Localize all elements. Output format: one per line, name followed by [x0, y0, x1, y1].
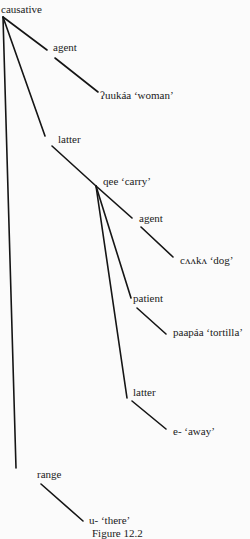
node-causative: causative — [1, 3, 42, 15]
node-latter: latter — [58, 133, 81, 145]
edge-range-there — [41, 484, 83, 521]
node-patient: patient — [133, 292, 163, 304]
node-latter-2: latter — [133, 386, 156, 398]
edge-carry-patient — [96, 186, 131, 298]
edge-causative-latter — [3, 17, 45, 136]
edge-latter-carry — [52, 146, 96, 186]
node-tortilla: paapáa ‘tortilla’ — [173, 326, 243, 338]
edge-carry-latter — [96, 186, 127, 398]
edge-causative-range — [3, 17, 16, 468]
edge-agent-woman — [55, 58, 98, 92]
node-carry: qee ‘carry’ — [103, 175, 151, 187]
node-dog: cʌʌkʌ ‘dog’ — [180, 254, 233, 266]
node-woman: ʔuukáa ‘woman’ — [100, 89, 174, 101]
node-agent: agent — [53, 41, 77, 53]
node-agent-2: agent — [139, 212, 163, 224]
edge-patient-tortilla — [137, 308, 166, 334]
figure-caption: Figure 12.2 — [92, 527, 143, 539]
node-away: e- ‘away’ — [173, 425, 215, 437]
node-range: range — [37, 468, 61, 480]
node-there: u- ‘there’ — [89, 514, 130, 526]
edge-agent-dog — [141, 227, 173, 257]
edge-latter-away — [132, 401, 166, 429]
